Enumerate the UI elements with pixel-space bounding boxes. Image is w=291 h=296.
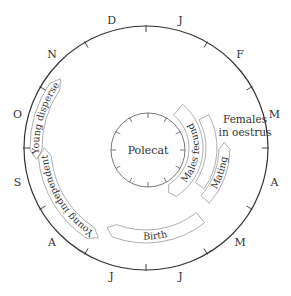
month-label: O [13,108,22,121]
month-tick [204,41,208,47]
clock-tick [130,178,133,182]
month-label: J [177,14,182,27]
center-label: Polecat [128,144,169,157]
month-label: F [236,48,244,61]
month-label: S [14,176,22,189]
clock-tick [164,118,167,122]
young-independent-label: Young independent [39,154,96,239]
month-label: J [108,270,113,283]
month-tick [85,248,89,254]
clock-tick [176,166,180,169]
polecat-annual-cycle-diagram: Males fecundMatingBirthYoung independent… [0,0,291,296]
month-label: A [47,236,57,249]
band-young-disperse: Young disperse [30,79,62,160]
month-label: M [269,108,280,121]
month-tick [246,206,252,210]
males-fecund-label: Males fecund [179,122,202,185]
clock-tick [164,178,167,182]
month-label: N [47,48,57,61]
month-tick [85,41,89,47]
month-label: J [177,270,182,283]
month-tick [246,87,252,91]
month-label: A [269,176,279,189]
band-young-independent: Young independent [38,148,98,240]
band-birth: Birth [107,213,204,243]
clock-tick [116,166,120,169]
females-label-line1: Females [223,113,267,125]
clock-tick [176,132,180,135]
month-label: M [234,236,245,249]
month-tick [39,206,45,210]
month-tick [204,248,208,254]
month-label: D [107,14,116,27]
activity-bands: Males fecundMatingBirthYoung independent… [30,79,230,243]
month-tick [39,87,45,91]
clock-tick [130,118,133,122]
females-label-line2: in oestrus [219,126,272,138]
clock-tick [116,132,120,135]
